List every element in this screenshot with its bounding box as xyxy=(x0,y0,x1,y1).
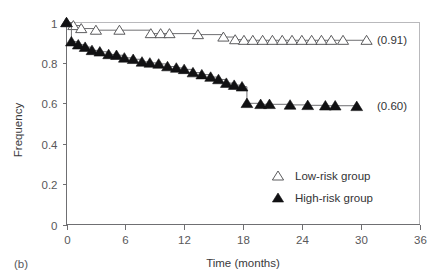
y-tick-label: 0.2 xyxy=(42,179,58,191)
y-tick-label: 0.4 xyxy=(42,139,59,151)
y-tick-label: 0 xyxy=(51,220,57,232)
survival-curve-figure: 00.20.40.60.81 061218243036 Frequency Ti… xyxy=(0,0,446,277)
legend-label-low-risk: Low-risk group xyxy=(295,170,370,182)
x-tick-label: 12 xyxy=(178,234,191,246)
y-axis-title: Frequency xyxy=(12,103,24,158)
x-tick-label: 30 xyxy=(355,234,368,246)
endpoint-label-high-risk: (0.60) xyxy=(377,100,407,112)
x-tick-label: 24 xyxy=(296,234,309,246)
y-tick-label: 0.6 xyxy=(42,98,58,110)
endpoint-label-low-risk: (0.91) xyxy=(377,34,407,46)
x-tick-label: 6 xyxy=(122,234,128,246)
y-tick-label: 1 xyxy=(51,18,57,30)
legend-label-high-risk: High-risk group xyxy=(295,192,373,204)
x-tick-label: 0 xyxy=(64,234,70,246)
y-tick-label: 0.8 xyxy=(42,58,58,70)
panel-label: (b) xyxy=(14,258,28,270)
x-tick-label: 36 xyxy=(414,234,427,246)
x-tick-label: 18 xyxy=(237,234,250,246)
x-axis-title: Time (months) xyxy=(206,257,280,269)
chart-canvas: 00.20.40.60.81 061218243036 Frequency Ti… xyxy=(0,0,446,277)
